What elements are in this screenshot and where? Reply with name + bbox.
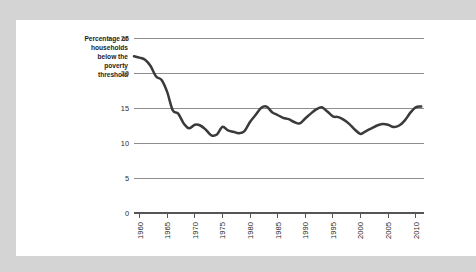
x-axis-tick-label: 2000 — [356, 222, 365, 239]
y-axis-tick-label: 0 — [125, 209, 129, 218]
y-axis-tick-label: 10 — [121, 139, 129, 148]
x-axis-tick-label: 1970 — [191, 222, 200, 239]
x-axis-tick-label: 2005 — [384, 222, 393, 239]
data-series-line — [134, 56, 421, 136]
x-axis-tick-label: 1980 — [246, 222, 255, 239]
x-axis-tick-label: 1965 — [163, 222, 172, 239]
x-axis-tick-label: 1975 — [218, 222, 227, 239]
y-axis-tick-label: 15 — [121, 104, 129, 113]
x-axis-tick-label: 2010 — [412, 222, 421, 239]
x-axis-tick-label: 1990 — [301, 222, 310, 239]
x-axis-tick-label: 1995 — [329, 222, 338, 239]
poverty-rate-line-chart: Percentage of households below the pover… — [16, 20, 476, 256]
figure-card: Percentage of households below the pover… — [16, 20, 476, 256]
y-axis-tick-label: 5 — [125, 174, 129, 183]
gridlines — [134, 38, 424, 178]
y-axis-tick-label: 25 — [121, 34, 129, 43]
y-axis-title-line-2: households — [91, 44, 128, 51]
x-axis-tick-label: 1985 — [274, 222, 283, 239]
y-axis-tick-label: 20 — [121, 69, 129, 78]
y-axis-title-line-3: below the — [98, 53, 129, 60]
x-axis-tick-labels: 1960196519701975198019851990199520002005… — [136, 222, 421, 239]
x-axis-tick-label: 1960 — [136, 222, 145, 239]
